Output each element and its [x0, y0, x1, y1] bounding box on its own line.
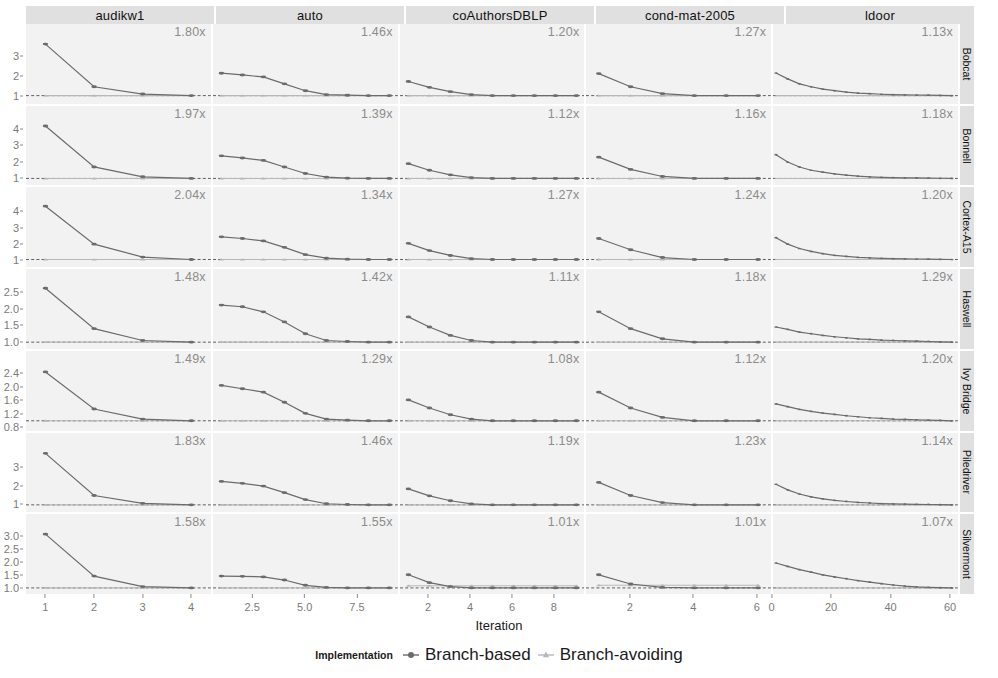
panel-bonnell-ldoor[interactable]: 1.18x [773, 106, 958, 186]
speedup-label: 1.27x [548, 188, 580, 202]
x-tick-label: 1 [42, 594, 48, 613]
facet-rows: 1.80x1.46x1.20x1.27x1.13xBobcat1.97x1.39… [26, 24, 974, 594]
legend-item-branch-based[interactable]: Branch-based [403, 645, 531, 665]
speedup-label: 1.29x [921, 270, 953, 284]
speedup-label: 1.01x [548, 515, 580, 529]
row-strip-label: Bonnell [961, 128, 973, 163]
speedup-label: 1.01x [735, 515, 767, 529]
speedup-label: 1.46x [361, 25, 393, 39]
panel-ivy-bridge-cond-mat-2005[interactable]: 1.12x [586, 351, 771, 431]
speedup-label: 1.13x [921, 25, 953, 39]
facet-row-bobcat: 1.80x1.46x1.20x1.27x1.13xBobcat [26, 24, 974, 104]
y-tick-label: 1 [13, 90, 19, 102]
panel-bonnell-auto[interactable]: 1.39x [213, 106, 398, 186]
panel-ivy-bridge-ldoor[interactable]: 1.20x [773, 351, 958, 431]
facet-row-cortex-a15: 2.04x1.34x1.27x1.24x1.20xCortex-A15 [26, 187, 974, 267]
panel-haswell-ldoor[interactable]: 1.29x [773, 269, 958, 349]
x-axis-auto: 2.55.07.5 [212, 594, 396, 616]
panel-cortex-a15-audikw1[interactable]: 2.04x [26, 187, 211, 267]
row-strip-bonnell: Bonnell [960, 106, 974, 186]
row-panels: 1.97x1.39x1.12x1.16x1.18x [26, 106, 958, 186]
panel-silvermont-ldoor[interactable]: 1.07x [773, 514, 958, 594]
x-tick-label: 5.0 [297, 594, 312, 613]
x-tick-label: 2 [425, 594, 431, 613]
speedup-label: 1.23x [735, 434, 767, 448]
panel-bonnell-coauthorsdblp[interactable]: 1.12x [400, 106, 585, 186]
row-panels: 1.80x1.46x1.20x1.27x1.13x [26, 24, 958, 104]
column-strip-audikw1: audikw1 [26, 6, 214, 24]
x-tick-label: 60 [944, 594, 956, 613]
speedup-label: 1.97x [174, 107, 206, 121]
panel-cortex-a15-cond-mat-2005[interactable]: 1.24x [586, 187, 771, 267]
panel-ivy-bridge-auto[interactable]: 1.29x [213, 351, 398, 431]
speedup-label: 1.12x [735, 352, 767, 366]
speedup-label: 1.19x [548, 434, 580, 448]
x-axis-coauthorsdblp: 2468 [399, 594, 583, 616]
y-axis-bonnell: 1234 [0, 106, 24, 186]
y-axis-bobcat: 123 [0, 24, 24, 104]
row-strip-bobcat: Bobcat [960, 24, 974, 104]
y-tick-label: 1.5 [4, 319, 19, 331]
facet-row-ivy-bridge: 1.49x1.29x1.08x1.12x1.20xIvy Bridge [26, 351, 974, 431]
facet-row-silvermont: 1.58x1.55x1.01x1.01x1.07xSilvermont [26, 514, 974, 594]
panel-silvermont-auto[interactable]: 1.55x [213, 514, 398, 594]
circle-marker-icon [403, 647, 419, 663]
panel-piledriver-coauthorsdblp[interactable]: 1.19x [400, 433, 585, 513]
panel-ivy-bridge-coauthorsdblp[interactable]: 1.08x [400, 351, 585, 431]
facet-grid: audikw1autocoAuthorsDBLPcond-mat-2005ldo… [26, 6, 974, 594]
x-tick-label: 2 [91, 594, 97, 613]
speedup-label: 1.20x [921, 352, 953, 366]
y-tick-label: 1 [13, 498, 19, 510]
panel-haswell-cond-mat-2005[interactable]: 1.18x [586, 269, 771, 349]
panel-silvermont-coauthorsdblp[interactable]: 1.01x [400, 514, 585, 594]
panel-bobcat-audikw1[interactable]: 1.80x [26, 24, 211, 104]
row-strip-label: Cortex-A15 [961, 201, 973, 254]
x-axis-ldoor: 0204060 [772, 594, 956, 616]
panel-piledriver-audikw1[interactable]: 1.83x [26, 433, 211, 513]
panel-piledriver-ldoor[interactable]: 1.14x [773, 433, 958, 513]
legend-label-branch-avoiding: Branch-avoiding [560, 645, 683, 665]
speedup-label: 1.20x [548, 25, 580, 39]
x-tick-label: 3 [139, 594, 145, 613]
row-strip-silvermont: Silvermont [960, 514, 974, 594]
speedup-label: 1.18x [921, 107, 953, 121]
y-tick-label: 2.5 [4, 543, 19, 555]
row-strip-label: Piledriver [961, 451, 973, 495]
triangle-marker-icon [538, 647, 554, 663]
x-tick-label: 2 [627, 594, 633, 613]
panel-piledriver-auto[interactable]: 1.46x [213, 433, 398, 513]
panel-bobcat-auto[interactable]: 1.46x [213, 24, 398, 104]
panel-bobcat-coauthorsdblp[interactable]: 1.20x [400, 24, 585, 104]
y-tick-label: 1 [13, 254, 19, 266]
panel-haswell-auto[interactable]: 1.42x [213, 269, 398, 349]
panel-haswell-audikw1[interactable]: 1.48x [26, 269, 211, 349]
panel-bonnell-cond-mat-2005[interactable]: 1.16x [586, 106, 771, 186]
x-tick-label: 20 [825, 594, 837, 613]
facet-row-piledriver: 1.83x1.46x1.19x1.23x1.14xPiledriver [26, 433, 974, 513]
y-tick-label: 2.0 [4, 556, 19, 568]
x-tick-label: 4 [690, 594, 696, 613]
legend-item-branch-avoiding[interactable]: Branch-avoiding [538, 645, 683, 665]
facet-row-haswell: 1.48x1.42x1.11x1.18x1.29xHaswell [26, 269, 974, 349]
panel-bobcat-ldoor[interactable]: 1.13x [773, 24, 958, 104]
y-axis-piledriver: 123 [0, 433, 24, 513]
panel-bobcat-cond-mat-2005[interactable]: 1.27x [586, 24, 771, 104]
panel-haswell-coauthorsdblp[interactable]: 1.11x [400, 269, 585, 349]
panel-cortex-a15-auto[interactable]: 1.34x [213, 187, 398, 267]
y-tick-label: 3 [13, 50, 19, 62]
row-strip-ivy-bridge: Ivy Bridge [960, 351, 974, 431]
panel-silvermont-cond-mat-2005[interactable]: 1.01x [586, 514, 771, 594]
panel-silvermont-audikw1[interactable]: 1.58x [26, 514, 211, 594]
speedup-label: 1.39x [361, 107, 393, 121]
row-panels: 1.83x1.46x1.19x1.23x1.14x [26, 433, 958, 513]
panel-ivy-bridge-audikw1[interactable]: 1.49x [26, 351, 211, 431]
y-tick-label: 1.5 [4, 569, 19, 581]
x-tick-label: 4 [467, 594, 473, 613]
panel-cortex-a15-ldoor[interactable]: 1.20x [773, 187, 958, 267]
panel-bonnell-audikw1[interactable]: 1.97x [26, 106, 211, 186]
speedup-label: 1.07x [921, 515, 953, 529]
panel-piledriver-cond-mat-2005[interactable]: 1.23x [586, 433, 771, 513]
panel-cortex-a15-coauthorsdblp[interactable]: 1.27x [400, 187, 585, 267]
y-tick-label: 2.5 [4, 286, 19, 298]
row-strip-label: Haswell [961, 291, 973, 328]
